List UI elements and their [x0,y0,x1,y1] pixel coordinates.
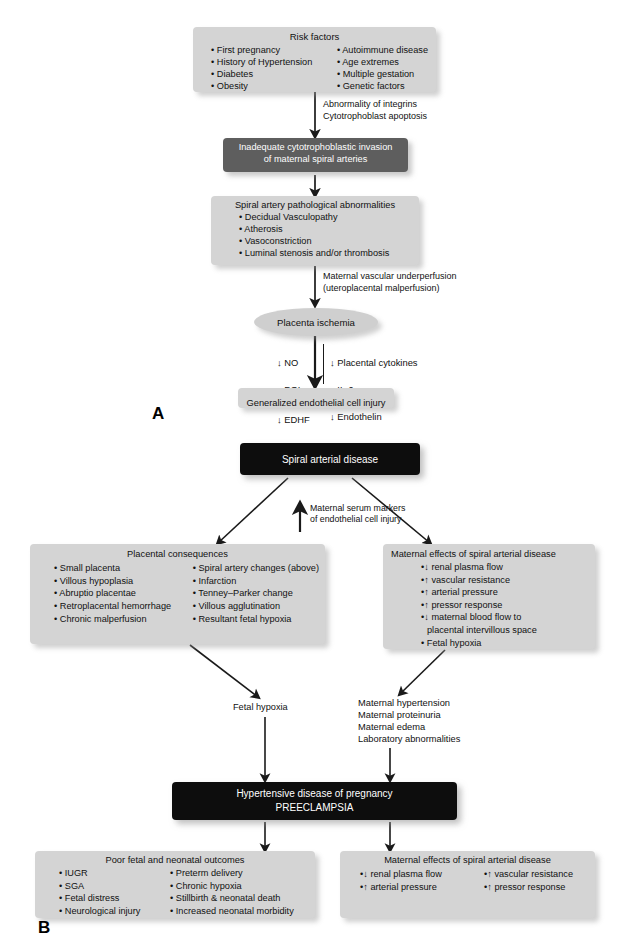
panel-label-a: A [152,404,164,424]
spiral-arterial-disease-label: Spiral arterial disease [282,454,378,465]
risk-factors-box: Risk factors • First pregnancy • History… [193,27,436,92]
maternal-effects-lower-col1: •↓ renal plasma flow •↑ arterial pressur… [360,868,478,895]
placental-consequences-title: Placental consequences [36,549,319,559]
risk-factors-col2: • Autoimmune disease • Age extremes • Mu… [337,44,428,93]
list-item: • Vasoconstriction [239,235,413,247]
spiral-artery-abnormalities-box: Spiral artery pathological abnormalities… [211,196,419,265]
list-item: •↓ maternal blood flow to [421,611,589,624]
list-item: • IUGR [59,867,162,880]
list-item: • Tenney–Parker change [193,587,319,600]
maternal-effects-lower-box: Maternal effects of spiral arterial dise… [340,851,595,918]
list-item: • Retroplacental hemorrhage [54,600,185,613]
list-item: •↑ vascular resistance [421,574,589,587]
preeclampsia-line2: PREECLAMPSIA [178,801,451,815]
panel-label-b: B [38,918,50,938]
list-item: • Increased neonatal morbidity [170,905,294,918]
list-item: • Villous hypoplasia [54,575,185,588]
list-item: •↑ pressor response [484,881,573,894]
inadequate-invasion-box: Inadequate cytotrophoblastic invasion of… [223,138,408,172]
list-item: • Chronic malperfusion [54,613,185,626]
list-item: • Abruptio placentae [54,587,185,600]
placenta-ischemia-label: Placenta ischemia [277,317,355,328]
mediator-item: ↓ Endothelin [330,410,418,424]
generalized-injury-box: Generalized endothelial cell injury [238,388,394,408]
placental-consequences-box: Placental consequences • Small placenta … [30,544,325,644]
placental-consequences-col2: • Spiral artery changes (above) • Infarc… [193,562,319,625]
list-item: •↓ renal plasma flow [360,868,478,881]
list-item: • SGA [59,880,162,893]
list-item: • Neurological injury [59,905,162,918]
maternal-effects-upper-box: Maternal effects of spiral arterial dise… [383,544,595,649]
list-item: • Chronic hypoxia [170,880,294,893]
figure-canvas: Risk factors • First pregnancy • History… [0,0,630,951]
list-item: • History of Hypertension [211,56,323,68]
maternal-effects-lower-title: Maternal effects of spiral arterial dise… [346,855,589,865]
list-item: •↑ arterial pressure [421,586,589,599]
spiral-artery-abnormalities-title: Spiral artery pathological abnormalities [217,200,413,210]
spiral-arterial-disease-box: Spiral arterial disease [240,443,420,475]
generalized-injury-label: Generalized endothelial cell injury [246,398,385,408]
serum-markers-label: Maternal serum markers of endothelial ce… [310,503,405,526]
list-item: • Fetal hypoxia [421,637,589,650]
maternal-effects-upper-title: Maternal effects of spiral arterial dise… [389,549,591,559]
list-item: • Obesity [211,80,323,92]
list-item: • Diabetes [211,68,323,80]
edge-label-integrins: Abnormality of integrins Cytotrophoblast… [323,99,427,122]
list-item: • Decidual Vasculopathy [239,211,413,223]
preeclampsia-box: Hypertensive disease of pregnancy PREECL… [172,782,457,820]
list-item: • Fetal distress [59,892,162,905]
list-item: • Multiple gestation [337,68,428,80]
list-item: • Preterm delivery [170,867,294,880]
list-item: • Villous agglutination [193,600,319,613]
list-item: • Autoimmune disease [337,44,428,56]
mediator-divider [323,344,324,384]
list-item: • First pregnancy [211,44,323,56]
inadequate-invasion-line2: of maternal spiral arteries [229,154,402,166]
mediator-item: ↓ NO [277,356,310,370]
inadequate-invasion-line1: Inadequate cytotrophoblastic invasion [229,142,402,154]
maternal-effects-lower-col2: •↑ vascular resistance •↑ pressor respon… [484,868,573,895]
poor-outcomes-box: Poor fetal and neonatal outcomes • IUGR … [35,851,315,918]
fetal-hypoxia-label: Fetal hypoxia [233,702,288,714]
list-item: • Resultant fetal hypoxia [193,613,319,626]
preeclampsia-line1: Hypertensive disease of pregnancy [178,787,451,801]
list-item: • Luminal stenosis and/or thrombosis [239,247,413,259]
list-item: •↓ renal plasma flow [421,561,589,574]
placental-consequences-col1: • Small placenta • Villous hypoplasia • … [54,562,185,625]
list-item: • Genetic factors [337,80,428,92]
list-item: •↑ pressor response [421,599,589,612]
mediator-item: ↓ Placental cytokines [330,356,418,370]
edge-label-underperfusion: Maternal vascular underperfusion (uterop… [323,271,457,294]
placenta-ischemia-ellipse: Placenta ischemia [254,308,378,336]
list-item: • Age extremes [337,56,428,68]
list-item: •↑ arterial pressure [360,881,478,894]
list-item: • Infarction [193,575,319,588]
maternal-findings-label: Maternal hypertension Maternal proteinur… [358,698,460,746]
poor-outcomes-col1: • IUGR • SGA • Fetal distress • Neurolog… [59,867,162,917]
list-item: placental intervillous space [421,624,589,637]
risk-factors-col1: • First pregnancy • History of Hypertens… [211,44,323,93]
list-item: • Atherosis [239,223,413,235]
mediator-item: ↓ EDHF [277,413,310,427]
list-item: •↑ vascular resistance [484,868,573,881]
list-item: • Spiral artery changes (above) [193,562,319,575]
list-item: • Stillbirth & neonatal death [170,892,294,905]
poor-outcomes-title: Poor fetal and neonatal outcomes [41,855,309,865]
risk-factors-title: Risk factors [201,31,428,42]
list-item: • Small placenta [54,562,185,575]
poor-outcomes-col2: • Preterm delivery • Chronic hypoxia • S… [170,867,294,917]
